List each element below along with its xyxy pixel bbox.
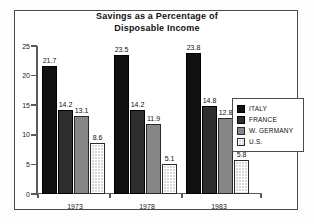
y-tick-label: 0 [12,191,30,198]
legend-item[interactable]: FRANCE [237,114,299,125]
x-tick-label: 1983 [189,203,249,210]
plot-area: 0510152025 21.714.213.18.623.514.211.95.… [36,46,262,194]
legend-label: U.S. [249,138,262,145]
y-tick-label: 25 [12,43,30,50]
y-tick-label: 10 [12,131,30,138]
bar-value-label: 13.1 [75,107,89,114]
bar-value-label: 14.2 [131,101,145,108]
legend-swatch-icon [237,127,245,135]
bar-value-label: 23.5 [115,46,129,53]
chart-title: Savings as a Percentage of Disposable In… [0,10,314,34]
y-tick-label: 15 [12,102,30,109]
legend-swatch-icon [237,105,245,113]
bar: 8.6 [90,143,105,194]
chart-legend: ITALYFRANCEW. GERMANYU.S. [232,98,304,152]
chart-title-line-2: Disposable Income [0,22,314,34]
bar-value-label: 23.8 [187,44,201,51]
chart-title-line-1: Savings as a Percentage of [0,10,314,22]
bar: 5.8 [234,160,249,194]
bar: 12.8 [218,118,233,194]
legend-swatch-icon [237,138,245,146]
bar-value-label: 21.7 [43,57,57,64]
bar: 11.9 [146,124,161,194]
bar-value-label: 11.9 [147,115,160,122]
bar-group: 21.714.213.18.6 [42,46,112,194]
bar-value-label: 14.8 [203,97,217,104]
chart-page: Savings as a Percentage of Disposable In… [0,0,314,224]
bar-groups: 21.714.213.18.623.514.211.95.123.814.812… [36,46,262,194]
legend-item[interactable]: W. GERMANY [237,125,299,136]
bar: 14.8 [202,106,217,194]
legend-item[interactable]: ITALY [237,103,299,114]
bar: 23.8 [186,53,201,194]
legend-label: W. GERMANY [249,127,293,134]
x-tick [260,193,262,198]
x-tick [37,193,39,198]
legend-label: FRANCE [249,116,277,123]
bar-value-label: 12.8 [219,109,233,116]
legend-label: ITALY [249,105,267,112]
x-tick [181,193,183,198]
bar: 21.7 [42,66,57,194]
bar-value-label: 14.2 [59,101,73,108]
y-tick-label: 5 [12,161,30,168]
bar-value-label: 8.6 [93,134,103,141]
bar: 23.5 [114,55,129,194]
x-tick-label: 1978 [117,203,177,210]
bar-group: 23.514.211.95.1 [114,46,184,194]
bar: 14.2 [130,110,145,194]
bar: 13.1 [74,116,89,194]
legend-swatch-icon [237,116,245,124]
legend-item[interactable]: U.S. [237,136,299,147]
y-tick-label: 20 [12,72,30,79]
x-tick-label: 1973 [45,203,105,210]
bar-value-label: 5.1 [165,155,175,162]
x-tick [109,193,111,198]
bar: 14.2 [58,110,73,194]
bar: 5.1 [162,164,177,194]
